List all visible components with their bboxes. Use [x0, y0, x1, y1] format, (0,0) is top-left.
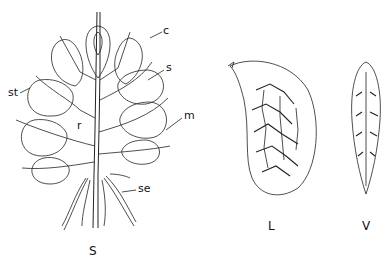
figure-drawing [0, 0, 387, 264]
caption-v: V [362, 220, 370, 232]
label-st: st [8, 87, 18, 98]
caption-s: S [89, 245, 97, 257]
label-se: se [138, 183, 151, 194]
label-s: s [166, 62, 172, 73]
label-c: c [163, 25, 169, 36]
label-m: m [184, 110, 195, 121]
label-r: r [77, 120, 82, 131]
panel-v-drawing [352, 62, 381, 194]
panel-s-drawing [16, 12, 182, 230]
panel-l-drawing [228, 61, 316, 195]
caption-l: L [268, 220, 275, 232]
